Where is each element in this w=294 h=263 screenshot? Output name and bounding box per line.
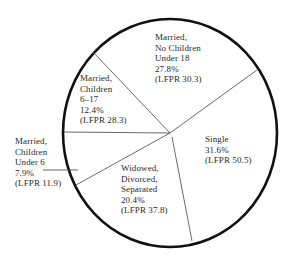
label-line: Married, [80, 73, 127, 84]
slice-label-married-children-under-6: Married, Children Under 6 7.9% (LFPR 11.… [15, 136, 61, 189]
label-line: Married, [15, 136, 61, 147]
label-line: 20.4% [121, 195, 168, 206]
label-line: (LFPR 28.3) [80, 115, 127, 126]
pie-chart [0, 0, 294, 263]
slice-label-single: Single 31.6% (LFPR 50.5) [205, 134, 252, 166]
label-line: Children [80, 84, 127, 95]
label-line: (LFPR 11.9) [15, 178, 61, 189]
label-line: Married, [155, 32, 202, 43]
label-line: No Children [155, 43, 202, 54]
label-line: Under 18 [155, 53, 202, 64]
label-line: (LFPR 50.5) [205, 155, 252, 166]
label-line: 31.6% [205, 145, 252, 156]
slice-label-married-children-6-17: Married, Children 6–17 12.4% (LFPR 28.3) [80, 73, 127, 126]
label-line: Widowed, [121, 163, 168, 174]
label-line: 6–17 [80, 94, 127, 105]
label-line: Under 6 [15, 157, 61, 168]
label-line: 12.4% [80, 105, 127, 116]
label-line: (LFPR 30.3) [155, 74, 202, 85]
label-line: (LFPR 37.8) [121, 205, 168, 216]
label-line: Divorced, [121, 174, 168, 185]
slice-label-married-no-children: Married, No Children Under 18 27.8% (LFP… [155, 32, 202, 85]
label-line: 27.8% [155, 64, 202, 75]
label-line: Separated [121, 184, 168, 195]
slice-label-widowed-divorced-separated: Widowed, Divorced, Separated 20.4% (LFPR… [121, 163, 168, 216]
label-line: Single [205, 134, 252, 145]
label-line: 7.9% [15, 168, 61, 179]
label-line: Children [15, 147, 61, 158]
